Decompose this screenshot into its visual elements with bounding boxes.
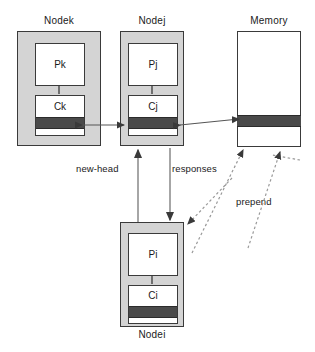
dashed-segment-helper <box>272 155 300 160</box>
connector-layer <box>0 0 315 352</box>
dashed-arrow-prepend-upper <box>192 150 243 253</box>
diagram-canvas: Nodek Nodej Memory Pk Ck Pj Cj Pi Ci Nod… <box>0 0 315 352</box>
arrow-cj-memory <box>180 119 239 125</box>
dashed-arrow-prepend-lower <box>248 152 280 248</box>
